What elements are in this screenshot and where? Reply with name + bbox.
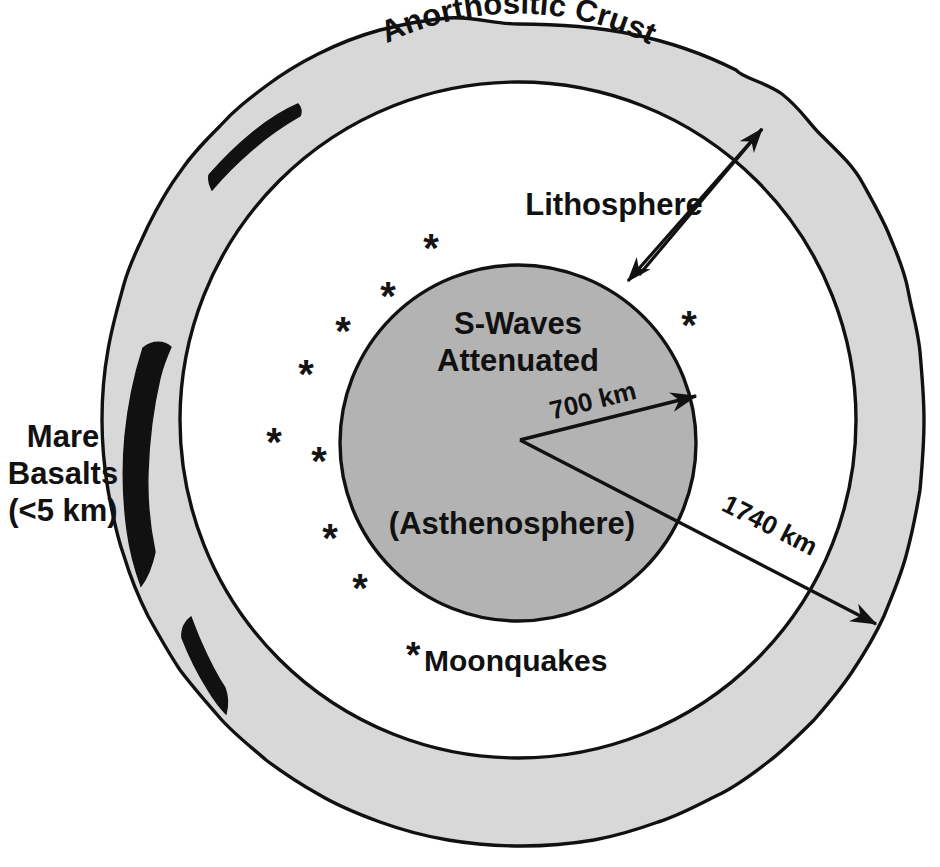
lithosphere-label: Lithosphere: [525, 187, 702, 222]
swaves-label-line1: S-Waves: [454, 306, 582, 341]
moonquake-star-icon: *: [311, 439, 327, 483]
moonquake-star-icon: *: [335, 309, 351, 353]
moon-cross-section-svg: Anorthositic Crust Lithosphere S-Waves A…: [0, 0, 940, 867]
moonquakes-legend-label: Moonquakes: [424, 644, 607, 677]
moonquake-star-icon: *: [322, 516, 338, 560]
mare-basalts-label-line1: Mare: [27, 419, 99, 454]
mare-basalts-label-line3: (<5 km): [8, 493, 117, 528]
swaves-label-line2: Attenuated: [437, 343, 599, 378]
moonquake-star-icon: *: [266, 420, 282, 464]
lunar-interior-diagram: Anorthositic Crust Lithosphere S-Waves A…: [0, 0, 940, 867]
asthenosphere-label: (Asthenosphere): [389, 506, 635, 541]
moonquake-star-icon: *: [423, 226, 439, 270]
mare-basalts-label-line2: Basalts: [8, 456, 118, 491]
moonquake-star-icon: *: [352, 566, 368, 610]
moonquakes-legend-star-icon: *: [406, 635, 421, 676]
moonquake-star-icon: *: [298, 352, 314, 396]
moonquake-star-icon: *: [380, 274, 396, 318]
moonquake-star-icon: *: [681, 303, 697, 347]
